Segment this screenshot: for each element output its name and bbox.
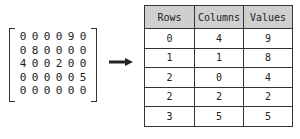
matrix-cell: 0 bbox=[41, 71, 53, 85]
matrix-cell: 0 bbox=[77, 57, 89, 71]
matrix-cell: 0 bbox=[41, 57, 53, 71]
header-columns: Columns bbox=[195, 6, 244, 29]
matrix-cell: 0 bbox=[29, 57, 41, 71]
table-row: 222 bbox=[145, 87, 293, 107]
matrix-cell: 0 bbox=[29, 30, 41, 44]
matrix-cell: 0 bbox=[65, 71, 77, 85]
matrix-cell: 0 bbox=[53, 84, 65, 98]
matrix-cell: 0 bbox=[65, 44, 77, 58]
table-cell: 9 bbox=[244, 29, 293, 49]
table-cell: 1 bbox=[145, 48, 195, 68]
table-cell: 0 bbox=[195, 68, 244, 88]
matrix-cell: 9 bbox=[65, 30, 77, 44]
right-bracket bbox=[91, 28, 97, 102]
matrix-cell: 0 bbox=[53, 44, 65, 58]
table-cell: 8 bbox=[244, 48, 293, 68]
matrix-grid: 000090080000400200000005000000 bbox=[17, 30, 89, 98]
matrix-cell: 0 bbox=[29, 71, 41, 85]
left-bracket bbox=[9, 28, 15, 102]
coo-table: Rows Columns Values 049118204222355 bbox=[144, 5, 293, 127]
matrix-cell: 8 bbox=[29, 44, 41, 58]
table-row: 355 bbox=[145, 107, 293, 127]
table-cell: 5 bbox=[244, 107, 293, 127]
table-cell: 2 bbox=[244, 87, 293, 107]
matrix-cell: 0 bbox=[77, 84, 89, 98]
table-row: 118 bbox=[145, 48, 293, 68]
matrix-cell: 0 bbox=[65, 57, 77, 71]
table-cell: 2 bbox=[145, 87, 195, 107]
matrix-cell: 0 bbox=[53, 71, 65, 85]
matrix-cell: 2 bbox=[53, 57, 65, 71]
matrix-cell: 0 bbox=[41, 30, 53, 44]
matrix-cell: 0 bbox=[65, 84, 77, 98]
right-arrow-icon bbox=[109, 58, 133, 66]
matrix-cell: 0 bbox=[41, 84, 53, 98]
header-values: Values bbox=[244, 6, 293, 29]
table-header-row: Rows Columns Values bbox=[145, 6, 293, 29]
table-cell: 5 bbox=[195, 107, 244, 127]
matrix-cell: 0 bbox=[29, 84, 41, 98]
table-cell: 2 bbox=[195, 87, 244, 107]
table-cell: 2 bbox=[145, 68, 195, 88]
table-cell: 0 bbox=[145, 29, 195, 49]
matrix-cell: 0 bbox=[53, 30, 65, 44]
table-row: 204 bbox=[145, 68, 293, 88]
matrix-cell: 0 bbox=[77, 44, 89, 58]
matrix-cell: 0 bbox=[41, 44, 53, 58]
table-cell: 3 bbox=[145, 107, 195, 127]
table-cell: 4 bbox=[195, 29, 244, 49]
matrix-cell: 0 bbox=[17, 30, 29, 44]
table-cell: 1 bbox=[195, 48, 244, 68]
matrix-cell: 5 bbox=[77, 71, 89, 85]
matrix-cell: 4 bbox=[17, 57, 29, 71]
table-cell: 4 bbox=[244, 68, 293, 88]
matrix-cell: 0 bbox=[77, 30, 89, 44]
matrix-cell: 0 bbox=[17, 84, 29, 98]
header-rows: Rows bbox=[145, 6, 195, 29]
matrix-cell: 0 bbox=[17, 71, 29, 85]
sparse-matrix: 000090080000400200000005000000 bbox=[9, 28, 97, 100]
matrix-cell: 0 bbox=[17, 44, 29, 58]
table-row: 049 bbox=[145, 29, 293, 49]
